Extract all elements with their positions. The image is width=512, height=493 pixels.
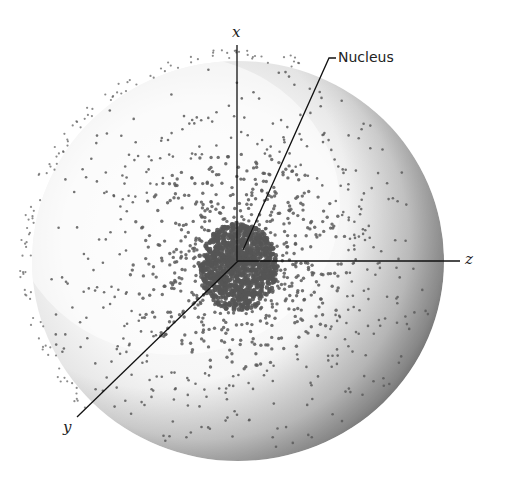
electron-cloud-svg — [0, 0, 512, 493]
nucleus-label: Nucleus — [338, 50, 394, 64]
z-axis-label: z — [465, 252, 473, 267]
x-axis-label: x — [232, 25, 240, 40]
y-axis-label: y — [63, 420, 71, 435]
electron-cloud-diagram: x z y Nucleus — [0, 0, 512, 493]
